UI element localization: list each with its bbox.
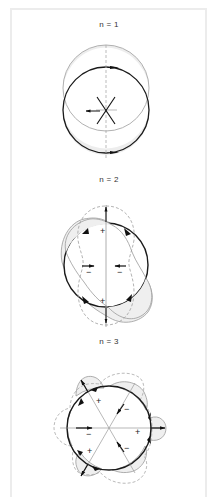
label-plus-top: + (100, 226, 105, 236)
label-plus-1: + (96, 396, 101, 406)
label-minus-1: − (124, 404, 129, 414)
panel-n3: + + + − − − (54, 373, 166, 483)
label-plus-2: + (135, 427, 140, 437)
label-minus-3: − (124, 443, 129, 453)
label-minus-left: − (86, 267, 91, 277)
label-minus-right: − (117, 267, 122, 277)
panel-n2: + + − − (61, 205, 152, 327)
arrow-radial-inner-upper-right (117, 404, 124, 414)
panel-n1 (63, 45, 149, 158)
arrow-radial-inner-lower-right (117, 442, 124, 452)
label-minus-2: − (86, 429, 91, 439)
shade-lobe-top-left (76, 376, 104, 396)
label-plus-3: + (87, 446, 92, 456)
mode-diagrams: + + − − + + + (0, 0, 218, 497)
label-plus-bottom: + (100, 296, 105, 306)
shade-lobe-right (150, 417, 166, 440)
